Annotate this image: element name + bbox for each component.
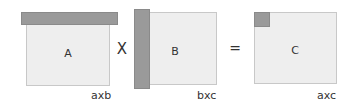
matrix-a-dims: axb: [91, 89, 111, 102]
matrix-c-dims: axc: [317, 89, 336, 102]
matrix-b-column-highlight: [134, 9, 150, 89]
multiply-operator: X: [114, 40, 130, 58]
equals-operator: =: [228, 40, 242, 56]
matrix-a-row-highlight: [21, 12, 118, 25]
matrix-c-label: C: [287, 44, 303, 57]
matrix-b-dims: bxc: [197, 89, 216, 102]
matrix-b-label: B: [167, 45, 183, 58]
matrix-a-label: A: [60, 47, 76, 60]
matrix-c-element-highlight: [254, 12, 270, 27]
